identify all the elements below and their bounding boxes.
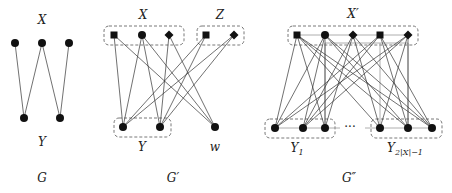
nodes <box>11 31 436 133</box>
label-Y-last-subscript: 2|X|−1 <box>395 148 423 157</box>
label-X: X <box>38 13 47 27</box>
label-Y1-base: Y <box>290 141 298 155</box>
circle-node <box>404 124 412 132</box>
gray-guide-lines <box>275 35 432 128</box>
circle-node <box>321 31 329 39</box>
edge <box>123 35 234 127</box>
circle-node <box>376 124 384 132</box>
circle-node <box>38 39 46 47</box>
diamond-node <box>165 31 174 40</box>
label-X-prime: X′ <box>347 7 358 21</box>
circle-node <box>299 124 307 132</box>
circle-node <box>11 39 19 47</box>
circle-node <box>211 123 219 131</box>
edge <box>15 43 24 118</box>
circle-node <box>271 124 279 132</box>
circle-node <box>428 124 436 132</box>
label-Y: Y <box>38 135 46 149</box>
figure: X Y G X Z Y w G′ X′ ··· Y1 Y2|X|−1 G″ <box>0 0 452 193</box>
edges <box>15 35 432 128</box>
ellipsis: ··· <box>344 120 355 134</box>
graph-drawing <box>0 0 452 193</box>
edge <box>297 35 325 128</box>
square-node <box>203 32 210 39</box>
circle-node <box>56 114 64 122</box>
edge <box>380 35 432 128</box>
edge <box>142 35 160 127</box>
circle-node <box>119 123 127 131</box>
square-node <box>111 32 118 39</box>
circle-node <box>20 114 28 122</box>
edge <box>353 35 380 128</box>
edge <box>297 35 380 128</box>
label-Z: Z <box>216 8 224 22</box>
caption-G-double-prime: G″ <box>342 171 356 185</box>
diamond-node <box>349 31 358 40</box>
caption-G: G <box>37 171 47 185</box>
edge <box>123 35 206 127</box>
circle-node <box>156 123 164 131</box>
edge <box>42 43 60 118</box>
edge <box>169 35 215 127</box>
edge <box>275 35 297 128</box>
edge <box>160 35 206 127</box>
square-node <box>294 32 301 39</box>
label-Y-last-base: Y <box>387 141 395 155</box>
label-Y1-subscript: 1 <box>298 148 303 157</box>
label-X: X <box>139 8 148 22</box>
edge <box>325 35 353 128</box>
label-Y: Y <box>138 140 146 154</box>
label-Y1: Y1 <box>290 141 303 157</box>
edge <box>160 35 234 127</box>
diamond-node <box>230 31 239 40</box>
circle-node <box>321 124 329 132</box>
edge <box>114 35 123 127</box>
caption-G-prime: G′ <box>167 171 179 185</box>
circle-node <box>65 39 73 47</box>
circle-node <box>138 31 146 39</box>
label-Y-last: Y2|X|−1 <box>387 141 423 157</box>
label-w: w <box>210 140 220 154</box>
edge <box>24 43 42 118</box>
square-node <box>377 32 384 39</box>
edge <box>60 43 69 118</box>
